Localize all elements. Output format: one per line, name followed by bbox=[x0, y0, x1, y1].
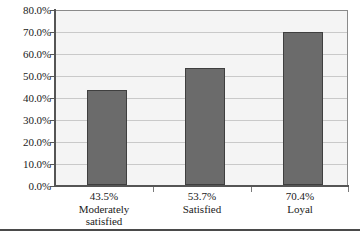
y-axis-tick-label: 80.0% bbox=[23, 5, 51, 16]
y-axis-tick-label: 40.0% bbox=[23, 93, 51, 104]
category-value: 53.7% bbox=[153, 190, 251, 203]
category-name-line2: satisfied bbox=[55, 215, 153, 228]
category-label-loyal: 70.4% Loyal bbox=[251, 190, 349, 215]
bar-loyal bbox=[283, 32, 323, 185]
y-axis-tick-label: 0.0% bbox=[28, 181, 51, 192]
y-axis-tick-label: 10.0% bbox=[23, 159, 51, 170]
bar-chart-figure: 80.0% 70.0% 60.0% 50.0% 40.0% 30.0% 20.0… bbox=[0, 0, 360, 236]
bottom-divider bbox=[0, 229, 360, 231]
category-name-line1: Moderately bbox=[55, 203, 153, 216]
x-axis-line bbox=[54, 185, 349, 187]
category-value: 70.4% bbox=[251, 190, 349, 203]
plot-area bbox=[55, 10, 348, 186]
category-value: 43.5% bbox=[55, 190, 153, 203]
category-name-line1: Loyal bbox=[251, 203, 349, 216]
y-axis-tick-label: 70.0% bbox=[23, 27, 51, 38]
y-axis-tick-label: 60.0% bbox=[23, 49, 51, 60]
y-axis-labels: 80.0% 70.0% 60.0% 50.0% 40.0% 30.0% 20.0… bbox=[0, 0, 54, 236]
category-label-moderately-satisfied: 43.5% Moderately satisfied bbox=[55, 190, 153, 228]
category-name-line1: Satisfied bbox=[153, 203, 251, 216]
bar-satisfied bbox=[185, 68, 225, 185]
y-axis-tick-label: 50.0% bbox=[23, 71, 51, 82]
bar-moderately-satisfied bbox=[87, 90, 127, 185]
y-axis-line bbox=[54, 9, 56, 187]
y-axis-tick-label: 20.0% bbox=[23, 137, 51, 148]
y-axis-tick-label: 30.0% bbox=[23, 115, 51, 126]
category-label-satisfied: 53.7% Satisfied bbox=[153, 190, 251, 215]
